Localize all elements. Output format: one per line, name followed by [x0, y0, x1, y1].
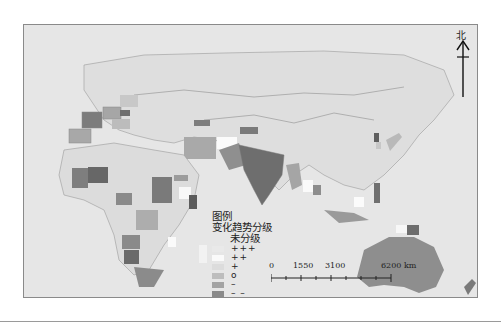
legend-item: ++: [212, 253, 272, 262]
scale-tick-3100: 3100: [325, 261, 345, 270]
north-arrow-icon: [453, 39, 473, 111]
legend-swatch: [212, 246, 224, 252]
legend-swatch: [212, 291, 224, 297]
legend-label: – – –: [231, 297, 255, 298]
scale-bar: 0 1550 3100 6200 km: [269, 261, 429, 291]
page-divider: [0, 321, 501, 322]
legend-item: +: [212, 262, 272, 271]
legend-item: o: [212, 271, 272, 280]
scale-tick-6200: 6200 km: [381, 261, 416, 270]
scale-tick-0: 0: [269, 261, 274, 270]
north-arrow: 北: [453, 27, 473, 99]
scale-bar-line: [271, 271, 431, 285]
scale-tick-1550: 1550: [293, 261, 313, 270]
legend-swatch: [212, 255, 224, 261]
legend-swatch: [212, 264, 224, 270]
legend-swatch: [212, 282, 224, 288]
map-frame: 北 图例 变化趋势分级 未分级 +++ ++ + o –: [23, 24, 478, 298]
legend-swatch: [212, 273, 224, 279]
legend: 图例 变化趋势分级 未分级 +++ ++ + o – – – – – –: [212, 211, 272, 298]
